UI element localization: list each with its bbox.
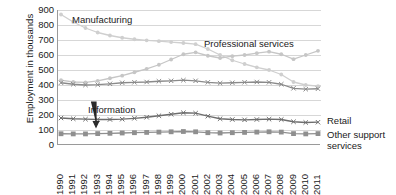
data-point — [255, 51, 259, 55]
y-axis-tick: 900 — [20, 5, 54, 14]
x-axis-tick: 2001 — [190, 174, 199, 195]
data-point — [169, 58, 173, 62]
data-point — [303, 132, 308, 137]
annotation-professional-services: Professional services — [204, 38, 294, 49]
annotation-information: Information — [88, 104, 136, 115]
data-point — [316, 49, 320, 53]
data-point — [206, 54, 210, 58]
data-point — [96, 31, 100, 35]
series-line — [61, 51, 318, 83]
data-point — [133, 70, 137, 74]
x-axis-tick: 2011 — [312, 175, 321, 195]
series-line — [61, 80, 318, 89]
data-point — [304, 83, 308, 87]
data-point — [157, 130, 162, 135]
data-point — [96, 79, 100, 83]
data-point — [83, 132, 88, 137]
x-axis-tick: 2003 — [214, 174, 223, 195]
data-point — [267, 50, 271, 54]
x-axis-tick: 1999 — [165, 174, 174, 195]
data-point — [279, 52, 283, 56]
data-point — [59, 131, 64, 136]
x-axis-tick: 1994 — [104, 174, 113, 195]
data-point — [194, 50, 198, 54]
series-other-support-services — [59, 129, 321, 136]
data-point — [181, 52, 185, 56]
data-point — [292, 57, 296, 61]
data-point — [95, 131, 100, 136]
data-point — [267, 129, 272, 134]
data-point — [218, 56, 222, 60]
data-point — [71, 132, 76, 137]
x-axis-tick: 2008 — [275, 174, 284, 195]
data-point — [157, 63, 161, 67]
data-point — [230, 58, 234, 62]
y-axis-tick: 200 — [20, 110, 54, 119]
x-axis-tick: 2006 — [251, 174, 260, 195]
data-point — [218, 131, 223, 136]
data-point — [144, 130, 149, 135]
data-point — [267, 68, 271, 72]
data-point — [120, 131, 125, 136]
data-point — [194, 42, 198, 46]
data-point — [181, 41, 185, 45]
x-axis-tick: 2009 — [288, 174, 297, 195]
data-point — [108, 34, 112, 38]
data-point — [243, 53, 247, 57]
plot-lines — [58, 10, 321, 145]
annotation-manufacturing: Manufacturing — [72, 14, 132, 25]
x-axis-tick: 1990 — [55, 174, 64, 195]
legend-label-retail: Retail — [327, 116, 351, 127]
y-axis-tick: 300 — [20, 95, 54, 104]
x-axis-tick: 2002 — [202, 174, 211, 195]
data-point — [255, 65, 259, 69]
data-point — [279, 73, 283, 77]
y-axis-tick: 500 — [20, 65, 54, 74]
data-point — [291, 131, 296, 136]
x-axis-tick: 1991 — [67, 174, 76, 195]
y-axis-tick-labels: 9008007006005004003002001000 — [18, 0, 54, 195]
data-point — [193, 129, 198, 134]
x-axis-tick: 2004 — [226, 174, 235, 195]
data-point — [292, 80, 296, 84]
x-axis-tick: 2005 — [239, 174, 248, 195]
x-axis-tick: 1992 — [79, 174, 88, 195]
data-point — [316, 131, 321, 136]
x-axis-tick-labels: 1990199119921993199419951996199719981999… — [57, 146, 320, 195]
x-axis-tick: 1998 — [153, 174, 162, 195]
data-point — [108, 131, 113, 136]
y-axis-tick: 400 — [20, 80, 54, 89]
y-axis-tick: 800 — [20, 20, 54, 29]
x-axis-tick: 1997 — [141, 174, 150, 195]
data-point — [133, 37, 137, 41]
data-point — [279, 130, 284, 135]
data-point — [169, 129, 174, 134]
x-axis-tick: 1996 — [128, 174, 137, 195]
data-point — [145, 38, 149, 42]
legend-label-other-support-services: Other support services — [327, 130, 393, 151]
data-point — [108, 76, 112, 80]
series-professional-services — [59, 49, 320, 84]
data-point — [145, 67, 149, 71]
data-point — [181, 129, 186, 134]
series-svg — [58, 10, 321, 145]
data-point — [84, 26, 88, 30]
chart-container: Employment in thousands 9008007006005004… — [0, 0, 396, 195]
x-axis-tick: 1995 — [116, 174, 125, 195]
data-point — [243, 62, 247, 66]
data-point — [59, 13, 63, 17]
data-point — [205, 130, 210, 135]
data-point — [230, 130, 235, 135]
data-point — [169, 40, 173, 44]
x-axis-tick: 1993 — [92, 174, 101, 195]
data-point — [304, 53, 308, 57]
x-axis-tick: 2000 — [177, 174, 186, 195]
y-axis-tick: 600 — [20, 50, 54, 59]
series-line — [61, 15, 318, 87]
y-axis-tick: 700 — [20, 35, 54, 44]
y-axis-tick: 0 — [20, 140, 54, 149]
data-point — [242, 130, 247, 135]
data-point — [230, 54, 234, 58]
data-point — [120, 36, 124, 40]
y-axis-tick: 100 — [20, 125, 54, 134]
